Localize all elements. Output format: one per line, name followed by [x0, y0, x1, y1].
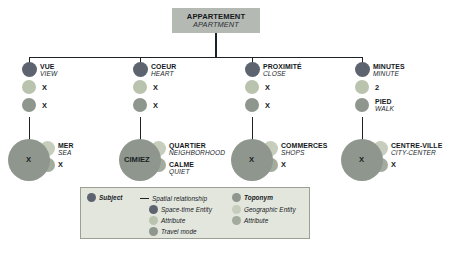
legend-swatch-toponym-icon	[232, 193, 241, 202]
toponym-label-view: X	[26, 156, 31, 164]
spacetime-label-view-en: VIEW	[40, 71, 57, 78]
legend-label-subject: Subject	[99, 194, 122, 201]
geo-attribute-label-minute: X	[391, 161, 396, 168]
spacetime-node-heart	[133, 62, 148, 77]
spacetime-node-close	[245, 62, 260, 77]
geo-entity-label-close-en: SHOPS	[281, 150, 327, 157]
travel-mode-label-minute-en: WALK	[375, 106, 394, 113]
attribute-label-heart-2: X	[153, 102, 158, 109]
legend-label-attribute-geographic: Attribute	[244, 217, 268, 224]
geo-attribute-label-heart: CALME QUIET	[169, 162, 194, 176]
geo-attribute-label-close: X	[281, 161, 286, 168]
spatial-relation-diagram: APPARTEMENT APARTMENT VUE VIEW X X X MER…	[0, 0, 451, 259]
legend-label-geographic-entity: Geographic Entity	[244, 206, 296, 213]
legend-swatch-subject-icon	[87, 193, 96, 202]
geo-attribute-label-view: X	[58, 161, 63, 168]
attribute-node-view-1	[22, 80, 36, 94]
spacetime-node-minute	[355, 62, 370, 77]
legend-item-geographic-entity: Geographic Entity	[232, 205, 296, 214]
spacetime-label-close-en: CLOSE	[263, 71, 302, 78]
spacetime-label-close: PROXIMITÉ CLOSE	[263, 64, 302, 78]
spacetime-label-heart-en: HEART	[151, 71, 176, 78]
attribute-node-close-1	[245, 80, 259, 94]
geo-entity-label-minute-en: CITY-CENTER	[391, 150, 442, 157]
attribute-node-heart-1	[133, 80, 147, 94]
legend-label-toponym: Toponym	[244, 194, 273, 201]
geo-entity-label-close: COMMERCES SHOPS	[281, 143, 327, 157]
spacetime-label-minute: MINUTES MINUTE	[373, 64, 405, 78]
legend-item-spatial-relationship: Spatial relationship	[140, 195, 207, 202]
legend-swatch-attribute-spacetime-icon	[149, 216, 158, 225]
attribute-label-view-2: X	[42, 102, 47, 109]
legend-label-spacetime-entity: Space-time Entity	[161, 206, 212, 213]
legend-swatch-geographic-entity-icon	[232, 205, 241, 214]
legend-item-toponym: Toponym	[232, 193, 273, 202]
spacetime-label-view: VUE VIEW	[40, 64, 57, 78]
geo-entity-label-heart: QUARTIER NEIGHBORHOOD	[169, 143, 225, 157]
root-label-en: APARTMENT	[193, 21, 239, 29]
attribute-label-heart-1: X	[153, 84, 158, 91]
branch-bus	[29, 57, 363, 58]
geo-entity-label-view: MER SEA	[58, 143, 74, 157]
attribute-label-minute-1: 2	[375, 84, 379, 91]
legend-item-attribute-geographic: Attribute	[232, 216, 268, 225]
legend-swatch-spacetime-entity-icon	[149, 205, 158, 214]
legend-label-travel-mode: Travel mode	[161, 228, 197, 235]
attribute-label-view-1: X	[42, 84, 47, 91]
geo-entity-label-heart-en: NEIGHBORHOOD	[169, 150, 225, 157]
attribute-label-close-2: X	[265, 102, 270, 109]
geo-attribute-label-heart-en: QUIET	[169, 169, 194, 176]
geo-entity-label-minute: CENTRE-VILLE CITY-CENTER	[391, 143, 442, 157]
legend-box: Subject Spatial relationship Space-time …	[80, 187, 310, 239]
travel-mode-label-minute: PIED WALK	[375, 99, 394, 113]
travel-mode-node-minute	[355, 98, 369, 112]
toponym-label-close: X	[249, 156, 254, 164]
legend-item-attribute-spacetime: Attribute	[149, 216, 185, 225]
legend-swatch-spatial-relationship-icon	[140, 198, 149, 200]
root-stem	[215, 33, 216, 57]
toponym-label-heart: CIMIEZ	[124, 156, 150, 164]
legend-item-travel-mode: Travel mode	[149, 227, 197, 236]
attribute-node-minute-1	[355, 80, 369, 94]
spacetime-label-heart: COEUR HEART	[151, 64, 176, 78]
legend-swatch-travel-mode-icon	[149, 227, 158, 236]
spacetime-node-view	[22, 62, 37, 77]
toponym-label-minute: X	[359, 156, 364, 164]
legend-label-spatial-relationship: Spatial relationship	[152, 195, 207, 202]
attribute-node-heart-2	[133, 98, 147, 112]
root-node-apartment: APPARTEMENT APARTMENT	[172, 8, 260, 33]
spacetime-label-minute-en: MINUTE	[373, 71, 405, 78]
legend-item-subject: Subject	[87, 193, 122, 202]
attribute-node-close-2	[245, 98, 259, 112]
attribute-node-view-2	[22, 98, 36, 112]
attribute-label-close-1: X	[265, 84, 270, 91]
legend-swatch-attribute-geographic-icon	[232, 216, 241, 225]
geo-entity-label-view-en: SEA	[58, 150, 74, 157]
legend-item-spacetime-entity: Space-time Entity	[149, 205, 212, 214]
legend-label-attribute-spacetime: Attribute	[161, 217, 185, 224]
